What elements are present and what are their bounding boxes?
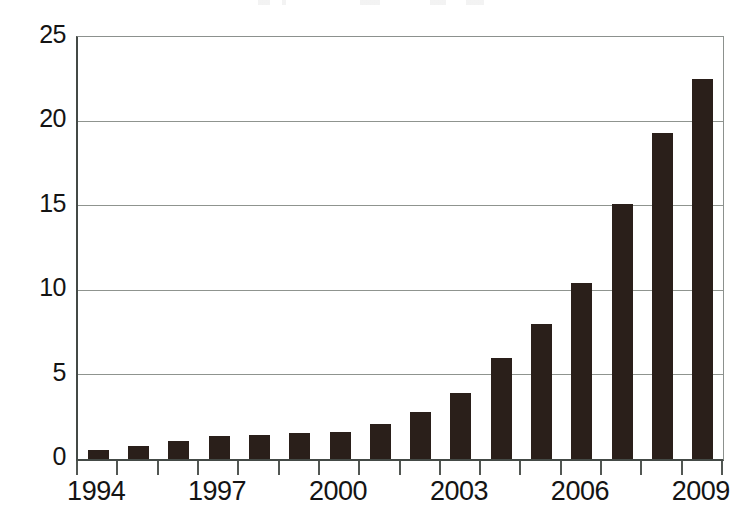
x-axis-tick [721,461,723,475]
bar-chart: 0510152025 199419972000200320062009 [0,0,736,516]
x-axis-tick [197,461,199,475]
x-axis-tick [157,461,159,475]
y-axis-tick-label: 10 [6,275,66,300]
bar [612,204,633,459]
x-axis-tick-label: 1997 [188,475,246,507]
x-axis-tick [600,461,602,475]
x-axis-tick [640,461,642,475]
y-axis-tick-label: 5 [6,360,66,385]
bar [209,436,230,459]
x-axis-tick-label: 2000 [309,475,367,507]
y-axis-tick-label: 20 [6,106,66,131]
x-axis-tick [560,461,562,475]
x-axis-tick-label: 2006 [551,475,609,507]
bar [491,358,512,459]
y-axis-tick-label: 15 [6,191,66,216]
x-axis-tick-label: 2009 [672,475,730,507]
x-axis: 199419972000200320062009 [76,461,724,516]
x-axis-tick [358,461,360,475]
x-axis-tick [237,461,239,475]
x-axis-tick [318,461,320,475]
x-axis-tick [116,461,118,475]
y-axis-tick-labels: 0510152025 [0,0,66,516]
bar [289,433,310,459]
bar [410,412,431,459]
x-axis-tick [76,461,78,475]
bar [168,441,189,459]
bar [249,435,270,459]
y-axis-tick-label: 25 [6,22,66,47]
bar [652,133,673,459]
x-axis-tick [439,461,441,475]
scan-artifact-strip [240,0,500,5]
bar [330,432,351,459]
bar [128,446,149,459]
gridline [78,121,723,122]
bar [571,283,592,459]
x-axis-tick-label: 1994 [67,475,125,507]
bar [370,424,391,459]
x-axis-tick [399,461,401,475]
x-axis-tick-label: 2003 [430,475,488,507]
bar [88,450,109,459]
x-axis-tick [519,461,521,475]
bar [450,393,471,459]
bar [692,79,713,459]
x-axis-tick [479,461,481,475]
y-axis-tick-label: 0 [6,444,66,469]
x-axis-tick [278,461,280,475]
bar [531,324,552,459]
plot-area [76,36,724,461]
x-axis-tick [681,461,683,475]
